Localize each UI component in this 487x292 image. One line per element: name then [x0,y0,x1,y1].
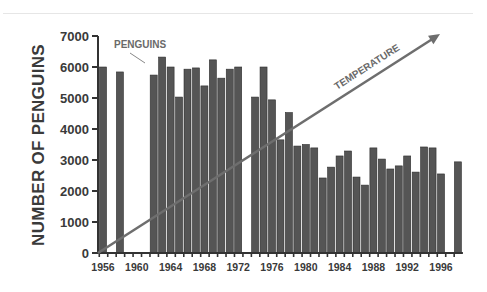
x-tick-label: 1992 [396,261,420,273]
bar-1984 [336,156,343,253]
bar-1958 [116,72,123,253]
x-tick-label: 1996 [429,261,453,273]
bar-1991 [395,166,402,253]
x-tick-label: 1964 [159,261,183,273]
y-tick-label: 1000 [60,215,89,230]
x-tick-label: 1960 [125,261,149,273]
bar-1986 [353,177,360,253]
bar-1974 [252,97,259,253]
x-axis-labels: 1956196019641968197219761980198419881992… [91,261,453,273]
bar-1995 [429,148,436,253]
x-tick-label: 1968 [193,261,217,273]
bar-1969 [209,60,216,253]
bar-1985 [345,151,352,253]
x-tick-label: 1984 [328,261,352,273]
bar-1983 [328,167,335,253]
bars [100,57,462,253]
x-axis [98,253,463,257]
y-tick-label: 5000 [60,91,89,106]
bar-1970 [218,78,225,253]
y-axis-title: NUMBER OF PENGUINS [29,44,48,246]
bar-1987 [361,185,368,253]
bar-1996 [438,174,445,253]
bar-1956 [100,67,107,253]
bar-1992 [404,156,411,253]
bar-1990 [387,169,394,253]
bar-1968 [201,86,208,253]
bar-1989 [378,159,385,253]
bar-1980 [302,145,309,254]
bar-1967 [192,68,199,253]
bar-1965 [176,97,183,253]
bar-1975 [260,67,267,253]
penguin-temperature-chart: NUMBER OF PENGUINS 010002000300040005000… [0,0,487,292]
y-tick-label: 2000 [60,184,89,199]
x-tick-label: 1988 [362,261,386,273]
bar-1994 [421,147,428,253]
y-tick-label: 6000 [60,60,89,75]
y-tick-label: 4000 [60,122,89,137]
x-tick-label: 1972 [227,261,251,273]
y-tick-label: 7000 [60,29,89,44]
bar-1966 [184,69,191,253]
penguins-annotation-label: PENGUINS [114,39,167,50]
bar-1977 [277,140,284,253]
bar-1979 [294,146,301,253]
x-tick-label: 1956 [91,261,115,273]
y-tick-label: 0 [82,246,89,261]
bar-1982 [319,178,326,253]
x-tick-label: 1976 [260,261,284,273]
temperature-arrow-head-icon [428,34,440,44]
bar-1981 [311,148,318,253]
y-axis-ticks: 01000200030004000500060007000 [60,29,98,261]
x-tick-label: 1980 [294,261,318,273]
bar-1972 [235,67,242,253]
bar-1971 [226,69,233,253]
bar-1993 [412,172,419,253]
bar-1998 [454,162,461,253]
bar-1962 [150,75,157,253]
bar-1963 [159,57,166,253]
bar-1988 [370,148,377,253]
bar-1964 [167,67,174,253]
y-tick-label: 3000 [60,153,89,168]
penguins-pointer-line [130,53,145,63]
bar-1976 [269,100,276,253]
